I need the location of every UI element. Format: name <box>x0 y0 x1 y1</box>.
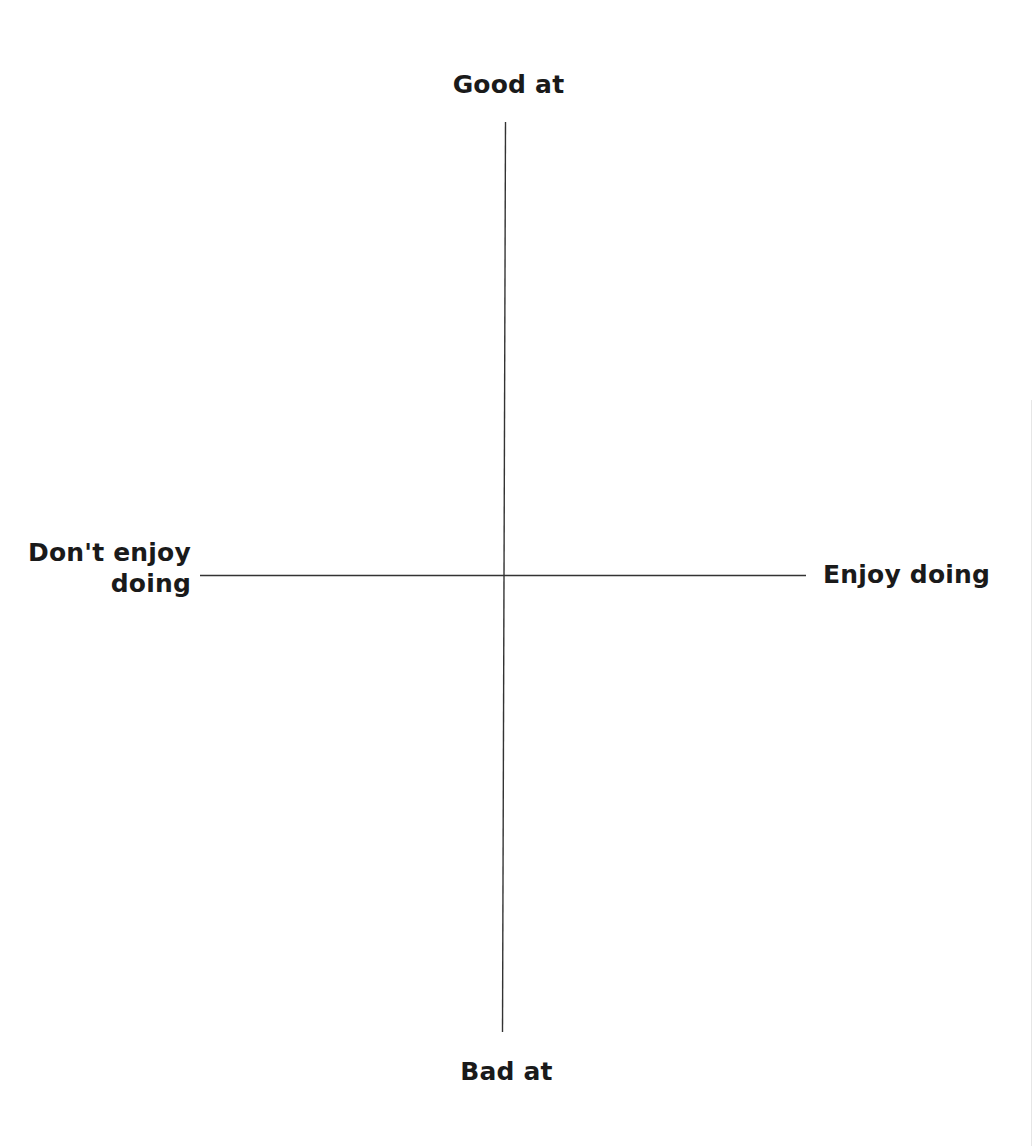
axis-label-bad-at: Bad at <box>0 1057 1013 1087</box>
axis-label-dont-enjoy-line1: Don't enjoy <box>28 537 191 568</box>
axis-label-dont-enjoy-doing: Don't enjoy doing <box>28 537 191 599</box>
page-edge-divider <box>1031 400 1032 1146</box>
vertical-axis <box>503 122 506 1032</box>
axis-label-good-at: Good at <box>0 70 1017 100</box>
axis-label-enjoy-doing: Enjoy doing <box>823 560 990 590</box>
axis-label-dont-enjoy-line2: doing <box>28 568 191 599</box>
